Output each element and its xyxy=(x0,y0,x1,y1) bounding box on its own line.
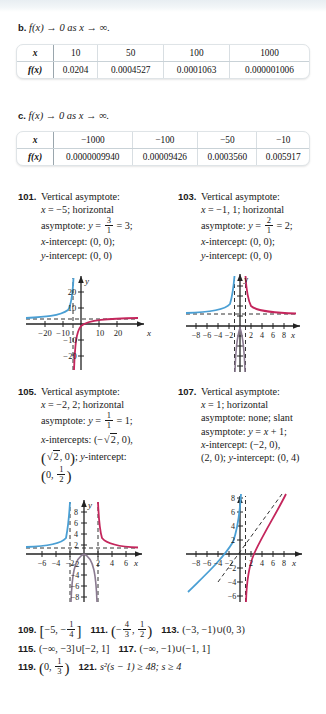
answer-107-va-value: x = 1; horizontal xyxy=(201,398,326,411)
graph-107-ytick-2: 4 xyxy=(231,522,235,531)
graph-105-xlabel: x xyxy=(133,558,138,568)
answer-105-ha: asymptote: y = 1 1 = 1; xyxy=(41,411,170,430)
graph-107-ytick-0: 8 xyxy=(231,494,235,503)
answer-103-va-label: Vertical asymptote: xyxy=(201,190,326,203)
answer-107-yint: (2, 0); y-intercept: (0, 4) xyxy=(201,451,326,464)
graph-101-ytick-3: −20 xyxy=(63,351,76,361)
graph-105-xtick-4: 4 xyxy=(110,559,114,568)
answer-105-xint2: (√2, 0); y-intercept: xyxy=(41,450,170,463)
graph-105: −6 −4 −2 2 4 6 8 6 4 2 −2 −4 −6 −8 x y xyxy=(18,492,158,608)
graph-105-ytick-2: 4 xyxy=(74,530,78,539)
fraction-1-2: 1 2 xyxy=(57,465,65,484)
answer-101-va-label: Vertical asymptote: xyxy=(41,190,168,203)
graph-107-ytick-4: −2 xyxy=(228,564,237,573)
graph-103-ylabel: y xyxy=(243,274,248,284)
graph-103-xtick-4: 2 xyxy=(249,331,253,340)
answer-103-yint: y-intercept: (0, 0) xyxy=(201,249,326,262)
graph-105-xtick-1: −4 xyxy=(52,559,61,568)
answer-107: 107. Vertical asymptote: x = 1; horizont… xyxy=(178,385,326,464)
answer-113-value: (−3, −1)∪(0, 3) xyxy=(182,624,245,635)
table-b-x-3: 1000 xyxy=(229,45,309,62)
graph-105-ytick-4: −2 xyxy=(71,560,80,569)
answer-109-value: [−5, −14] xyxy=(40,624,82,635)
answer-105: 105. Vertical asymptote: x = −2, 2; hori… xyxy=(18,385,170,484)
table-b-x-2: 100 xyxy=(164,45,230,62)
graph-103-xtick-5: 4 xyxy=(260,331,264,340)
graph-107-xtick-6: 6 xyxy=(271,559,275,568)
answer-113-number: 113. xyxy=(161,624,179,635)
graph-107-xtick-7: 8 xyxy=(282,559,286,568)
part-c-text: f(x) → 0 as x → ∞. xyxy=(29,110,110,121)
graph-107-ytick-6: −6 xyxy=(228,592,237,601)
graph-103-xtick-2: −4 xyxy=(214,331,223,340)
fraction-1-3: 13 xyxy=(55,657,63,676)
graph-103-xtick-0: −8 xyxy=(192,331,201,340)
table-c-fx-2: 0.0003560 xyxy=(198,149,257,166)
answer-107-number: 107. xyxy=(178,385,197,398)
answer-115-number: 115. xyxy=(18,643,36,654)
graph-107-svg: −8 −6 −4 −2 2 4 6 8 8 6 4 2 −2 −4 −6 x xyxy=(178,492,318,604)
graph-101-ylabel: y xyxy=(84,276,89,286)
graph-103-xlabel: x xyxy=(290,330,295,340)
table-b-fx-0: 0.0204 xyxy=(54,62,98,79)
answer-115-value: (−∞, −3]∪[−2, 1] xyxy=(39,643,110,654)
table-c: x −1000 −100 −50 −10 f(x) 0.0000009940 0… xyxy=(16,131,310,166)
bottom-answer-list: 109.[−5, −14]111.(−43, 12)113.(−3, −1)∪(… xyxy=(18,620,318,678)
answer-101: 101. Vertical asymptote: x = −5; horizon… xyxy=(18,190,168,262)
table-b-fx-1: 0.0004527 xyxy=(98,62,164,79)
table-c-header-fx: f(x) xyxy=(17,149,54,166)
graph-107-xlabel: x xyxy=(291,558,296,568)
table-c-fx-3: 0.005917 xyxy=(257,149,309,166)
answer-key-page: b. f(x) → 0 as x → ∞. x 10 50 100 1000 f… xyxy=(0,0,326,714)
graph-101-xtick-2: 10 xyxy=(96,328,105,338)
answer-103-ha: asymptote: y = 2 1 = 2; xyxy=(201,216,326,235)
fraction-4-3: 43 xyxy=(123,620,131,639)
table-row: f(x) 0.0204 0.0004527 0.0001063 0.000001… xyxy=(17,62,309,79)
answer-105-va-value: x = −2, 2; horizontal xyxy=(41,398,170,411)
bottom-row-3: 119.(0, 13)121.s²(s − 1) ≥ 48; s ≥ 4 xyxy=(18,657,318,678)
graph-101-ytick-0: 20 xyxy=(68,287,77,297)
table-c-fx-1: 0.00009426 xyxy=(132,149,198,166)
graph-101: −20 −10 10 20 20 10 −10 −20 x y xyxy=(18,266,158,378)
graph-101-ytick-1: 10 xyxy=(68,303,77,313)
graph-107-xtick-2: −4 xyxy=(214,559,223,568)
answer-121-value: s²(s − 1) ≥ 48; s ≥ 4 xyxy=(100,661,181,672)
graph-105-xtick-5: 6 xyxy=(124,559,128,568)
graph-105-ytick-5: −4 xyxy=(71,571,80,580)
part-b-text: f(x) → 0 as x → ∞. xyxy=(29,22,110,33)
graph-105-xtick-3: 2 xyxy=(96,559,100,568)
table-c-x-3: −10 xyxy=(257,132,309,149)
answer-105-va-label: Vertical asymptote: xyxy=(41,385,170,398)
table-c-fx-0: 0.0000009940 xyxy=(54,149,133,166)
part-b-line: b. f(x) → 0 as x → ∞. xyxy=(18,22,110,34)
table-b-header-fx: f(x) xyxy=(17,62,54,79)
answer-105-yint: (0, 1 2 ) xyxy=(41,465,170,484)
graph-105-ytick-1: 6 xyxy=(74,519,78,528)
part-c-label: c. xyxy=(18,110,26,121)
graph-105-ytick-0: 8 xyxy=(74,508,78,517)
graph-103: −8 −6 −4 −2 2 4 6 8 x y xyxy=(178,266,318,378)
table-row: x −1000 −100 −50 −10 xyxy=(17,132,309,149)
graph-107-xtick-5: 4 xyxy=(260,559,264,568)
table-b-x-1: 50 xyxy=(98,45,164,62)
table-b: x 10 50 100 1000 f(x) 0.0204 0.0004527 0… xyxy=(16,44,310,79)
graph-107: −8 −6 −4 −2 2 4 6 8 8 6 4 2 −2 −4 −6 x xyxy=(178,492,318,608)
graph-103-xtick-1: −6 xyxy=(203,331,212,340)
table-c-x-2: −50 xyxy=(198,132,257,149)
table-c-header-x: x xyxy=(17,132,54,149)
answer-111-value: (−43, 12) xyxy=(111,624,152,635)
answer-109-number: 109. xyxy=(18,624,37,635)
answer-101-number: 101. xyxy=(18,190,37,203)
graph-107-ytick-1: 6 xyxy=(231,508,235,517)
graph-101-xtick-3: 20 xyxy=(114,328,123,338)
answer-119-number: 119. xyxy=(18,661,36,672)
table-c-x-1: −100 xyxy=(132,132,198,149)
answer-105-xints: x-intercepts: (−√2, 0), xyxy=(41,433,170,446)
table-row: f(x) 0.0000009940 0.00009426 0.0003560 0… xyxy=(17,149,309,166)
answer-117-value: (−∞, −1)∪(−1, 1] xyxy=(139,643,210,654)
fraction-2-1: 2 1 xyxy=(265,216,273,235)
graph-107-xtick-0: −8 xyxy=(192,559,201,568)
graph-107-xtick-1: −6 xyxy=(203,559,212,568)
graph-107-xtick-4: 2 xyxy=(249,559,253,568)
table-c-x-0: −1000 xyxy=(54,132,133,149)
